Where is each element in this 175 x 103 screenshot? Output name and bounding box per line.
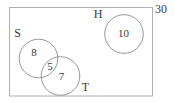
region-s-and-t-value: 5 — [47, 60, 53, 72]
region-t-only-value: 7 — [59, 70, 65, 82]
region-s-only-value: 8 — [31, 46, 37, 58]
set-t-label: T — [82, 80, 90, 94]
region-h-value: 10 — [118, 27, 130, 39]
venn-diagram: S T H 30 8 5 7 10 — [0, 0, 175, 103]
set-s-label: S — [14, 26, 21, 40]
set-h-label: H — [94, 7, 103, 21]
universal-set-total-label: 30 — [155, 2, 167, 16]
